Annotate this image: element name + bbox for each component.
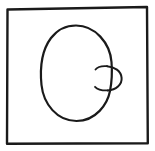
background-rect [0,0,155,151]
drawing-canvas [0,0,155,151]
line-drawing-svg [0,0,155,151]
